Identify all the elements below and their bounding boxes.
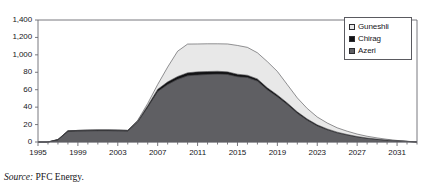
x-tick-label: 2019 xyxy=(260,148,294,157)
cropped-header-text xyxy=(104,0,414,6)
legend-item-label: Azeri xyxy=(358,46,376,55)
y-tick-label: 1,200 xyxy=(0,33,32,41)
legend-item[interactable]: Azeri xyxy=(349,45,408,56)
x-tick-label: 1995 xyxy=(21,148,55,157)
x-tick-label: 2027 xyxy=(340,148,374,157)
x-tick-label: 2023 xyxy=(300,148,334,157)
legend-swatch-chirag xyxy=(349,36,355,42)
source-note: Source: PFC Energy. xyxy=(4,172,84,183)
legend-item-label: Guneshli xyxy=(358,22,389,31)
y-tick-label: 0 xyxy=(0,138,32,146)
source-value: PFC Energy. xyxy=(36,172,84,182)
chart-legend[interactable]: GuneshliChiragAzeri xyxy=(344,17,412,60)
area-series-azeri xyxy=(38,74,417,142)
x-tick-label: 2015 xyxy=(220,148,254,157)
x-tick-label: 2011 xyxy=(181,148,215,157)
x-tick-label: 2003 xyxy=(101,148,135,157)
legend-swatch-guneshli xyxy=(349,24,355,30)
legend-swatch-azeri xyxy=(349,48,355,54)
y-tick-label: 1,000 xyxy=(0,51,32,59)
source-label: Source: xyxy=(4,172,33,182)
x-tick-label: 1999 xyxy=(61,148,95,157)
y-tick-label: 40 xyxy=(0,103,32,111)
legend-item-label: Chirag xyxy=(358,34,381,43)
x-tick-label: 2007 xyxy=(141,148,175,157)
legend-item[interactable]: Chirag xyxy=(349,33,408,44)
y-tick-label: 20 xyxy=(0,121,32,129)
y-tick-label: 60 xyxy=(0,86,32,94)
y-tick-label: 1,400 xyxy=(0,16,32,24)
figure-container: 0204060801,0001,2001,400 199519992003200… xyxy=(0,0,423,191)
y-tick-label: 80 xyxy=(0,68,32,76)
stacked-area-chart: 0204060801,0001,2001,400 199519992003200… xyxy=(0,12,423,162)
legend-item[interactable]: Guneshli xyxy=(349,21,408,32)
x-tick-label: 2031 xyxy=(380,148,414,157)
